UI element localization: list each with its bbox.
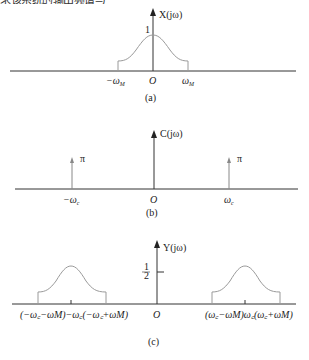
signal-spectrum-diagram: X(jω) 1 −ωM O ωM (a) C(jω) π π −ωc O ωc … [0, 0, 309, 360]
caption-b: (b) [146, 207, 158, 219]
arrow-up-icon [151, 130, 157, 138]
tick-origin: O [149, 75, 156, 86]
half-label-denominator: 2 [144, 270, 149, 281]
tick-origin: O [150, 194, 157, 205]
tick-wc: ωc [224, 194, 234, 206]
impulse-label-neg: π [80, 153, 85, 164]
y-axis-label: X(jω) [159, 9, 182, 21]
y-axis-label: Y(jω) [163, 242, 186, 254]
arrow-up-icon [150, 8, 156, 16]
tick-wm: ωM [182, 75, 195, 87]
tick-neg-wm: −ωM [106, 75, 126, 87]
left-band-labels: (−ω꜀−ωM)−ω꜀(−ω꜀+ωM) [20, 309, 129, 321]
impulse-label-pos: π [237, 153, 242, 164]
right-band-labels: (ω꜀−ωM)ω꜀(ω꜀+ωM) [205, 309, 293, 321]
tick-neg-wc: −ωc [63, 194, 80, 206]
right-spectrum-curve [212, 266, 280, 304]
arrow-up-icon [154, 240, 160, 248]
arrow-up-icon [70, 157, 74, 163]
arrow-up-icon [227, 157, 231, 163]
peak-label: 1 [145, 24, 150, 35]
caption-c: (c) [148, 336, 159, 348]
panel-c: Y(jω) 1 2 (−ω꜀−ωM)−ω꜀(−ω꜀+ωM) O (ω꜀−ωM)ω… [12, 240, 296, 348]
left-spectrum-curve [38, 266, 106, 304]
panel-a: X(jω) 1 −ωM O ωM (a) [10, 8, 296, 104]
tick-origin: O [153, 309, 160, 320]
caption-a: (a) [145, 92, 156, 104]
y-axis-label: C(jω) [160, 128, 183, 140]
panel-b: C(jω) π π −ωc O ωc (b) [15, 128, 298, 219]
